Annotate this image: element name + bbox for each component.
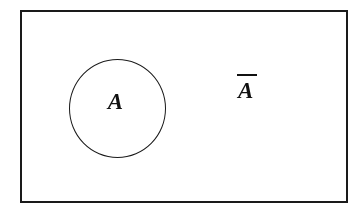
complement-label: A xyxy=(238,74,253,102)
overline-bar-icon: A xyxy=(238,74,253,102)
set-a-label: A xyxy=(0,90,231,113)
venn-diagram-figure: A A xyxy=(0,0,362,215)
